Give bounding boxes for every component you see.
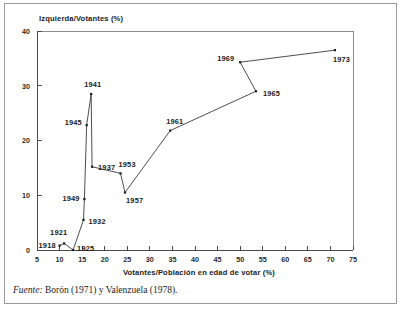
- x-tick-label: 70: [326, 255, 334, 264]
- x-tick-label: 40: [191, 255, 199, 264]
- data-point-label: 1957: [126, 196, 143, 205]
- data-point-label: 1949: [62, 194, 79, 203]
- source-text: Borón (1971) y Valenzuela (1978).: [45, 285, 178, 295]
- data-point-marker: [72, 249, 74, 251]
- x-tick-label: 20: [101, 255, 109, 264]
- y-axis-title: Izquierda/Votantes (%): [39, 14, 123, 23]
- x-tick-label: 60: [281, 255, 289, 264]
- y-tick-label: 10: [22, 191, 30, 200]
- x-tick-label: 10: [56, 255, 64, 264]
- y-tick-label: 40: [22, 27, 30, 36]
- data-point-label: 1969: [217, 54, 234, 63]
- data-point-label: 1965: [263, 89, 280, 98]
- source-label: Fuente:: [13, 285, 43, 295]
- plot-frame: [37, 31, 353, 250]
- data-point-label: 1941: [84, 80, 101, 89]
- data-point-marker: [91, 166, 93, 168]
- data-point-marker: [82, 219, 84, 221]
- data-point-label: 1937: [98, 163, 115, 172]
- data-point-marker: [58, 245, 60, 247]
- x-tick-label: 45: [214, 255, 222, 264]
- x-axis-title: Votantes/Población en edad de votar (%): [123, 268, 275, 277]
- data-point-labels: 1918192119251932194919451941193719531957…: [39, 54, 351, 253]
- data-point-label: 1925: [77, 244, 94, 253]
- y-tick-label: 20: [22, 136, 30, 145]
- x-axis-tick-labels: 51015202530354045505560657075: [35, 255, 357, 264]
- y-axis-tick-labels: 010203040: [22, 27, 30, 255]
- y-tick-label: 30: [22, 82, 30, 91]
- data-point-label: 1961: [166, 117, 183, 126]
- data-point-marker: [334, 49, 336, 51]
- data-point-marker: [169, 130, 171, 132]
- x-tick-label: 65: [304, 255, 312, 264]
- data-point-label: 1945: [65, 118, 82, 127]
- data-point-label: 1953: [119, 160, 136, 169]
- data-point-marker: [83, 198, 85, 200]
- data-point-label: 1973: [333, 55, 350, 64]
- source-note: Fuente: Borón (1971) y Valenzuela (1978)…: [13, 285, 343, 295]
- data-point-marker: [239, 61, 241, 63]
- y-tick-label: 0: [26, 246, 30, 255]
- x-tick-label: 35: [168, 255, 176, 264]
- figure-container: 51015202530354045505560657075 010203040 …: [0, 0, 404, 310]
- x-tick-label: 50: [236, 255, 244, 264]
- data-point-marker: [124, 191, 126, 193]
- data-point-label: 1932: [89, 217, 106, 226]
- y-axis-ticks: [37, 31, 42, 250]
- data-point-marker: [119, 172, 121, 174]
- data-point-marker: [90, 93, 92, 95]
- x-tick-label: 5: [35, 255, 39, 264]
- data-point-marker: [63, 242, 65, 244]
- data-point-marker: [255, 90, 257, 92]
- data-point-marker: [86, 124, 88, 126]
- x-tick-label: 75: [349, 255, 357, 264]
- chart-canvas: 51015202530354045505560657075 010203040 …: [0, 0, 404, 310]
- x-tick-label: 30: [146, 255, 154, 264]
- data-point-label: 1918: [39, 241, 56, 250]
- x-tick-label: 15: [78, 255, 86, 264]
- x-tick-label: 55: [259, 255, 267, 264]
- data-point-label: 1921: [50, 228, 67, 237]
- x-tick-label: 25: [123, 255, 131, 264]
